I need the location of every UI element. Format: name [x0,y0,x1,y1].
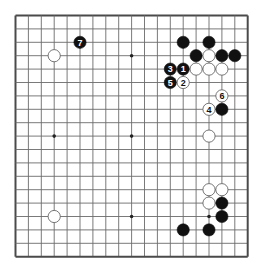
stone-disc [190,50,202,62]
black-stone: 1 [177,63,189,75]
star-point [52,134,56,138]
stone-disc [216,184,228,196]
move-number-label: 1 [181,64,186,74]
stone-disc [177,224,189,236]
white-stone [48,210,60,222]
black-stone: 7 [74,36,86,48]
black-stone [190,50,202,62]
stone-disc [216,50,228,62]
star-point [130,215,134,219]
black-stone [203,36,215,48]
stone-disc [203,36,215,48]
white-stone [203,63,215,75]
black-stone [216,50,228,62]
stone-disc [203,63,215,75]
star-point [130,134,134,138]
white-stone [203,130,215,142]
white-stone: 4 [203,103,215,115]
stone-disc [203,130,215,142]
star-point [130,54,134,58]
black-stone: 5 [164,76,176,88]
stone-disc [203,224,215,236]
stone-disc [203,184,215,196]
black-stone [229,50,241,62]
white-stone [203,184,215,196]
star-point [207,215,211,219]
move-number-label: 5 [168,78,173,88]
white-stone: 6 [216,90,228,102]
move-number-label: 7 [77,38,82,48]
white-stone [203,50,215,62]
black-stone [177,224,189,236]
move-number-label: 6 [219,91,224,101]
go-board: 7315264 [0,0,263,273]
move-number-label: 4 [206,105,211,115]
stone-disc [190,63,202,75]
white-stone [203,197,215,209]
black-stone [216,103,228,115]
black-stone [216,210,228,222]
move-number-label: 2 [181,78,186,88]
white-stone [48,50,60,62]
move-number-label: 3 [168,64,173,74]
white-stone [216,63,228,75]
stone-disc [48,50,60,62]
stone-disc [203,50,215,62]
black-stone [203,224,215,236]
black-stone [216,197,228,209]
white-stone: 2 [177,76,189,88]
black-stone: 3 [164,63,176,75]
stone-disc [48,210,60,222]
stone-disc [177,36,189,48]
stone-disc [216,63,228,75]
stone-disc [216,210,228,222]
stone-disc [216,197,228,209]
stone-disc [229,50,241,62]
white-stone [190,63,202,75]
white-stone [216,184,228,196]
stone-disc [216,103,228,115]
go-board-diagram: 7315264 [0,0,263,273]
black-stone [177,36,189,48]
stone-disc [203,197,215,209]
